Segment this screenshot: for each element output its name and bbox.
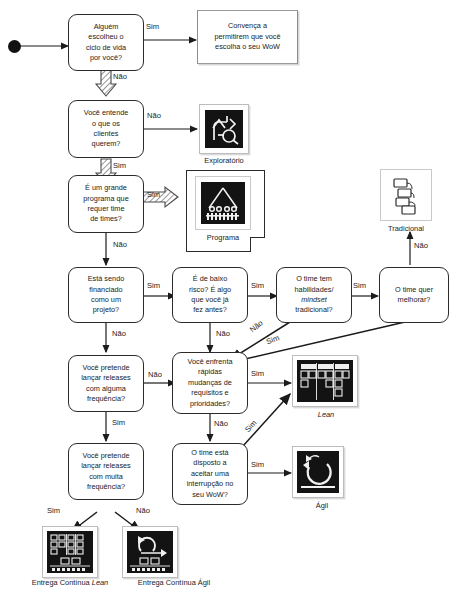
kanban-board-icon — [297, 360, 353, 402]
decision-some-release-frequency[interactable]: Você pretende lançar releases com alguma… — [68, 355, 144, 412]
node-line: escolheu o — [86, 32, 126, 42]
edge-label-improve-sim: Sim — [265, 333, 280, 346]
node-line: com alguma — [81, 384, 130, 394]
edge-label-fastchange-nao: Não — [214, 419, 228, 428]
caption-entrega-continua-agil: Entrega Contínua Ágil — [110, 578, 238, 587]
decision-accept-wow-interruption[interactable]: O time está disposto a aceitar uma inter… — [172, 443, 248, 505]
edge-label-skills-sim: Sim — [353, 281, 366, 290]
decision-large-program[interactable]: É um grande programa que requer time de … — [68, 175, 144, 233]
decision-high-release-frequency[interactable]: Você pretende lançar releases com muita … — [68, 443, 144, 500]
edge-label-many-sim: Sim — [47, 506, 60, 515]
node-line: prioridades? — [187, 399, 232, 409]
decision-low-risk[interactable]: É de baixo risco? É algo que você já fez… — [172, 267, 248, 323]
node-line: habilidades/ — [295, 285, 334, 295]
node-line: programa que — [83, 194, 128, 204]
caption-lean: Lean — [300, 410, 352, 419]
node-line: É de baixo — [189, 274, 231, 284]
node-line: melhorar? — [395, 295, 433, 305]
edge-label-lowrisk-sim: Sim — [251, 281, 264, 290]
edge-label-improve-nao: Não — [414, 241, 428, 250]
decision-team-wants-improve[interactable]: O time quer melhorar? — [379, 267, 449, 323]
node-line: clientes — [84, 129, 129, 139]
artifact-tile-entrega-continua-agil[interactable] — [122, 526, 178, 578]
edge-label-customers-nao: Não — [147, 111, 161, 120]
caption-ecl-italic: Lean — [92, 578, 108, 587]
node-line: interrupção no — [187, 479, 234, 489]
node-line: O time está — [187, 448, 234, 458]
start-dot — [8, 40, 21, 53]
flowchart-canvas: Alguém escolheu o ciclo de vida por você… — [0, 0, 453, 591]
caption-lean-text: Lean — [318, 410, 334, 419]
node-line: querem? — [84, 139, 129, 149]
node-line: mudanças de — [187, 378, 232, 388]
artifact-tile-programa — [195, 176, 251, 230]
edge-label-interrupt-sim: Sim — [251, 460, 264, 469]
edge-label-interrupt-sim-lean: Sim — [243, 418, 258, 434]
edge-label-lifecycle-nao: Não — [113, 72, 127, 81]
node-line: fez antes? — [189, 305, 231, 315]
node-line: o que os — [84, 119, 129, 129]
node-line: tradicional? — [295, 305, 334, 315]
edge-label-program-sim: Sim — [147, 190, 160, 199]
artifact-document-programa[interactable]: Programa — [186, 170, 265, 252]
edge-label-skills-nao: Não — [248, 318, 265, 334]
node-line: O time tem — [295, 274, 334, 284]
node-line: lançar releases — [81, 373, 130, 383]
node-line: Convença a — [214, 21, 280, 32]
decision-lifecycle-chosen[interactable]: Alguém escolheu o ciclo de vida por você… — [68, 14, 144, 71]
artifact-tile-lean[interactable] — [292, 355, 358, 407]
node-line: seu WoW? — [187, 490, 234, 500]
caption-exploratorio: Exploratório — [186, 156, 262, 165]
node-line: risco? É algo — [189, 285, 231, 295]
caption-programa: Programa — [187, 233, 259, 242]
decision-traditional-mindset[interactable]: O time tem habilidades/ mindset tradicio… — [276, 267, 352, 323]
node-line: que você já — [189, 295, 231, 305]
decision-rapid-requirement-changes[interactable]: Você enfrenta rápidas mudanças de requis… — [172, 352, 248, 414]
continuous-delivery-lean-icon — [47, 531, 93, 573]
node-line: disposto a — [187, 458, 234, 468]
node-line: financiado — [88, 285, 125, 295]
edge-label-program-nao: Não — [113, 240, 127, 249]
caption-tradicional: Tradicional — [368, 224, 444, 233]
node-line: aceitar uma — [187, 469, 234, 479]
caption-ecl-plain: Entrega Contínua — [32, 578, 92, 587]
edge-label-customers-sim: Sim — [113, 161, 126, 170]
node-line: projeto? — [88, 305, 125, 315]
edge-label-lowrisk-nao: Não — [216, 329, 230, 338]
artifact-tile-exploratorio[interactable] — [199, 104, 249, 154]
decision-understand-customers[interactable]: Você entende o que os clientes querem? — [68, 100, 144, 158]
node-line: lançar releases — [81, 461, 130, 471]
edge-label-lifecycle-sim: Sim — [146, 22, 159, 31]
node-line: Você enfrenta — [187, 357, 232, 367]
exploratory-arrows-icon — [205, 110, 243, 148]
decision-project-funded[interactable]: Está sendo financiado como um projeto? — [68, 267, 144, 323]
node-line: por você? — [86, 53, 126, 63]
node-line: Está sendo — [88, 274, 125, 284]
node-line: com muita — [81, 472, 130, 482]
edge-label-funded-sim: Sim — [147, 281, 160, 290]
artifact-tile-entrega-continua-lean[interactable] — [42, 526, 98, 578]
artifact-tile-tradicional[interactable] — [380, 169, 432, 221]
node-line: requisitos e — [187, 388, 232, 398]
edge-label-fastchange-sim: Sim — [251, 369, 264, 378]
node-line: Alguém — [86, 22, 126, 32]
program-teams-icon — [201, 182, 245, 224]
node-line: escolha o seu WoW — [214, 42, 280, 53]
node-line: como um — [88, 295, 125, 305]
node-line: de times? — [83, 214, 128, 224]
continuous-delivery-agile-icon — [127, 531, 173, 573]
node-line: Você entende — [84, 108, 129, 118]
node-line: frequência? — [81, 482, 130, 492]
node-line: requer time — [83, 204, 128, 214]
edge-label-some-nao: Não — [148, 370, 162, 379]
artifact-tile-agil[interactable] — [292, 446, 344, 498]
gantt-cascade-icon — [385, 174, 427, 216]
edge-label-funded-nao: Não — [112, 329, 126, 338]
node-line: É um grande — [83, 183, 128, 193]
cycle-loop-icon — [297, 451, 339, 493]
edge-label-many-nao: Não — [136, 506, 150, 515]
node-line: mindset — [295, 295, 334, 305]
node-line: Você pretende — [81, 451, 130, 461]
action-convince-stakeholders[interactable]: Convença a permitirem que você escolha o… — [197, 10, 298, 64]
node-line: ciclo de vida — [86, 43, 126, 53]
